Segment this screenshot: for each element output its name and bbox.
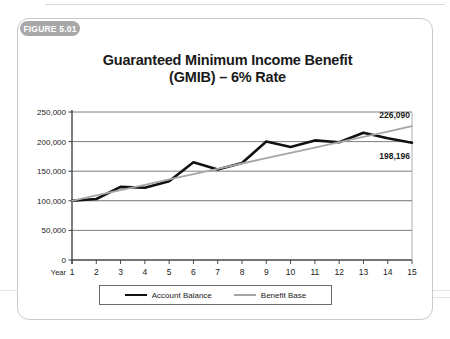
y-tick-label: 0 bbox=[62, 256, 67, 265]
series-line-benefit-base bbox=[72, 126, 412, 201]
x-tick-label: 1 bbox=[70, 267, 75, 277]
y-tick-label: 150,000 bbox=[37, 167, 66, 176]
legend-label-benefit-base: Benefit Base bbox=[261, 291, 306, 300]
x-tick-label: 7 bbox=[215, 267, 220, 277]
y-tick-label: 100,000 bbox=[37, 197, 66, 206]
y-tick-labels-group: 050,000100,000150,000200,000250,000 bbox=[37, 108, 66, 265]
legend-item-benefit-base: Benefit Base bbox=[234, 291, 306, 300]
x-axis-name: Year bbox=[51, 268, 67, 277]
x-tick-label: 8 bbox=[240, 267, 245, 277]
data-point-labels-group: 226,090198,196 bbox=[379, 110, 410, 161]
x-tick-label: 2 bbox=[94, 267, 99, 277]
x-tick-label: 12 bbox=[334, 267, 344, 277]
x-tick-label: 4 bbox=[142, 267, 147, 277]
x-tick-labels-group: 123456789101112131415Year bbox=[51, 267, 417, 277]
y-tick-label: 250,000 bbox=[37, 108, 66, 117]
x-tick-label: 14 bbox=[383, 267, 393, 277]
y-tick-label: 50,000 bbox=[42, 226, 67, 235]
data-label-226090: 226,090 bbox=[379, 110, 410, 120]
legend-item-account-balance: Account Balance bbox=[125, 291, 212, 300]
x-tick-label: 5 bbox=[167, 267, 172, 277]
legend-swatch-benefit-base bbox=[234, 294, 256, 296]
x-tick-label: 9 bbox=[264, 267, 269, 277]
x-tick-marks-group bbox=[72, 260, 412, 264]
x-tick-label: 13 bbox=[359, 267, 369, 277]
legend-label-account-balance: Account Balance bbox=[152, 291, 212, 300]
chart-legend: Account Balance Benefit Base bbox=[99, 285, 332, 305]
y-tick-label: 200,000 bbox=[37, 138, 66, 147]
data-label-198196: 198,196 bbox=[379, 151, 410, 161]
legend-swatch-account-balance bbox=[125, 294, 147, 297]
x-tick-label: 10 bbox=[286, 267, 296, 277]
x-tick-label: 6 bbox=[191, 267, 196, 277]
x-tick-label: 15 bbox=[407, 267, 417, 277]
data-series-group bbox=[72, 126, 412, 201]
x-tick-label: 3 bbox=[118, 267, 123, 277]
x-tick-label: 11 bbox=[310, 267, 319, 277]
series-line-account-balance bbox=[72, 133, 412, 201]
